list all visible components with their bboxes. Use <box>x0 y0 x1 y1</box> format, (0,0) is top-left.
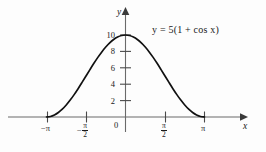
y-axis-label: y <box>117 8 121 18</box>
x-axis-arrowhead <box>240 113 248 121</box>
y-axis-arrowhead <box>122 7 130 15</box>
plot-canvas <box>0 0 266 152</box>
x-tick-label-pi-over-2: π 2 <box>161 122 167 139</box>
y-tick-label-2: 2 <box>100 97 115 106</box>
x-tick-label-0: 0 <box>114 121 118 130</box>
cosine-graph-figure: y x y = 5(1 + cos x) 10 8 6 4 2 0 −π − π… <box>0 0 266 152</box>
y-tick-label-8: 8 <box>100 47 115 56</box>
curve-equation-label: y = 5(1 + cos x) <box>152 25 219 35</box>
x-tick-label-neg-pi: −π <box>41 124 50 133</box>
fraction-denominator: 2 <box>82 130 88 139</box>
x-tick-label-neg-pi-over-2: − π 2 <box>77 122 88 139</box>
y-tick-label-4: 4 <box>100 80 115 89</box>
x-tick-label-pi: π <box>201 124 205 133</box>
x-axis-label: x <box>243 122 247 132</box>
y-tick-label-6: 6 <box>100 64 115 73</box>
fraction-denominator: 2 <box>161 130 167 139</box>
y-tick-label-10: 10 <box>100 31 115 40</box>
fraction-numerator: π <box>82 122 88 130</box>
fraction: π 2 <box>161 122 167 139</box>
fraction-numerator: π <box>161 122 167 130</box>
fraction: π 2 <box>82 122 88 139</box>
minus-sign: − <box>77 126 82 135</box>
